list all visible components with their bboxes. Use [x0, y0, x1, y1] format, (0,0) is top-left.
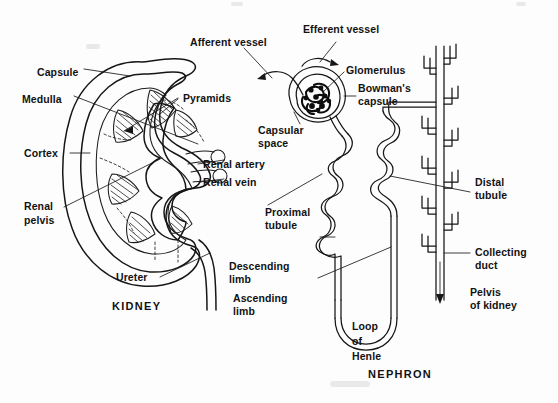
label-loop-line1: Loop	[352, 320, 378, 332]
label-renal-pelvis-line2: pelvis	[24, 214, 54, 226]
label-loop-line2: of	[352, 335, 363, 347]
label-descending-line1: Descending	[229, 260, 290, 272]
label-collecting-line1: Collecting	[475, 246, 527, 258]
renal-pyramid-left-lower	[108, 174, 139, 204]
label-distal-line1: Distal	[475, 176, 504, 188]
label-bowmans-line1: Bowman's	[358, 82, 411, 94]
label-renal-pelvis-line1: Renal	[24, 200, 53, 212]
label-capsular-line2: space	[258, 137, 288, 149]
distal-convoluted-tubule	[371, 102, 436, 216]
label-afferent-vessel: Afferent vessel	[190, 36, 267, 48]
diagram-canvas: Capsule Medulla Cortex Renal pelvis Pyra…	[0, 0, 558, 403]
label-collecting-line2: duct	[475, 259, 498, 271]
leader-afferent	[244, 48, 272, 78]
label-descending-line2: limb	[229, 273, 251, 285]
ureter-tube	[191, 240, 216, 310]
label-ascending-line2: limb	[233, 305, 255, 317]
label-pyramids: Pyramids	[183, 92, 231, 104]
ascending-limb	[391, 216, 397, 318]
label-medulla: Medulla	[22, 93, 62, 105]
leader-efferent	[320, 42, 336, 62]
leader-proximal	[268, 174, 322, 205]
bowmans-capsule-neck-inner	[330, 117, 342, 136]
label-loop-line3: Henle	[352, 350, 381, 362]
cortex-medulla-dashed-2	[100, 158, 129, 172]
renal-pyramid-left-upper	[114, 110, 143, 142]
label-pelvis-line2: of kidney	[470, 299, 517, 311]
label-ascending-line1: Ascending	[233, 292, 288, 304]
proximal-convoluted-tubule	[316, 134, 352, 300]
label-cortex: Cortex	[24, 147, 58, 159]
caption-nephron: NEPHRON	[368, 368, 432, 380]
renal-pyramid-right-upper	[174, 110, 197, 137]
label-capsular-line1: Capsular	[258, 124, 304, 136]
arrowhead-afferent	[257, 73, 266, 80]
label-ureter: Ureter	[116, 271, 148, 283]
label-proximal-line2: tubule	[265, 219, 297, 231]
caption-kidney: KIDNEY	[112, 300, 161, 312]
arrowhead-efferent	[330, 59, 339, 66]
label-bowmans-line2: capsule	[358, 95, 398, 107]
label-pelvis-line1: Pelvis	[470, 286, 501, 298]
descending-limb	[335, 300, 341, 318]
label-capsule: Capsule	[37, 66, 79, 78]
renal-pyramid-upper	[147, 90, 176, 128]
leader-ureter	[160, 253, 210, 277]
label-glomerulus: Glomerulus	[346, 64, 405, 76]
flow-arrow-head	[436, 294, 444, 304]
cortex-medulla-dashed-1	[104, 134, 133, 140]
label-renal-artery: Renal artery	[203, 158, 265, 170]
collecting-duct	[422, 44, 458, 304]
efferent-arteriole	[302, 59, 339, 66]
label-distal-line2: tubule	[475, 189, 507, 201]
scan-artifacts	[86, 2, 526, 387]
leader-ascending	[318, 247, 391, 278]
leader-glomerulus	[323, 72, 344, 92]
label-proximal-line1: Proximal	[265, 206, 310, 218]
label-efferent-vessel: Efferent vessel	[303, 23, 379, 35]
kidney-nephron-diagram: Capsule Medulla Cortex Renal pelvis Pyra…	[0, 0, 558, 403]
label-renal-vein: Renal vein	[203, 176, 257, 188]
